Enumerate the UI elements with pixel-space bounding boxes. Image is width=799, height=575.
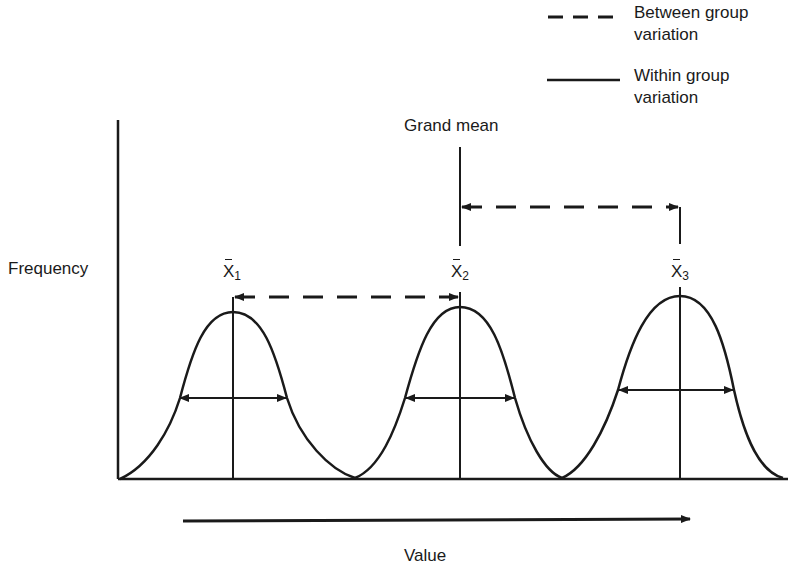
mean-1-label: X1 bbox=[223, 262, 241, 283]
legend-between-label: Between group variation bbox=[634, 2, 748, 46]
mean-3-label: X3 bbox=[671, 262, 689, 283]
y-axis-label: Frequency bbox=[8, 259, 88, 279]
legend-between-line2: variation bbox=[634, 24, 748, 46]
mean-1-subscript: 1 bbox=[234, 269, 241, 283]
x-axis-label: Value bbox=[404, 546, 446, 566]
mean-3-symbol: X bbox=[671, 262, 682, 282]
legend-between-line1: Between group bbox=[634, 2, 748, 24]
mean-2-subscript: 2 bbox=[462, 269, 469, 283]
mean-3-subscript: 3 bbox=[682, 269, 689, 283]
grand-mean-label: Grand mean bbox=[404, 116, 499, 136]
group-2-curve bbox=[355, 307, 562, 478]
mean-2-symbol: X bbox=[451, 262, 462, 282]
mean-2-label: X2 bbox=[451, 262, 469, 283]
legend-within-line1: Within group bbox=[634, 65, 729, 87]
legend-within-label: Within group variation bbox=[634, 65, 729, 109]
legend-within-line2: variation bbox=[634, 87, 729, 109]
group-3-curve bbox=[562, 296, 783, 478]
group-1-curve bbox=[120, 312, 355, 479]
value-arrow bbox=[183, 519, 690, 521]
mean-1-symbol: X bbox=[223, 262, 234, 282]
